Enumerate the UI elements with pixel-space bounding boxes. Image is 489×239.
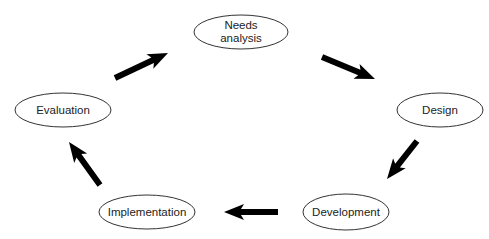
node-label-implementation: Implementation: [108, 206, 187, 219]
cycle-diagram: Needs analysis Design Development Implem…: [0, 0, 489, 239]
arrow-icon-design-to-development: [381, 136, 424, 184]
arrow-icon-implementation-to-evaluation: [63, 137, 107, 189]
node-label-evaluation: Evaluation: [36, 104, 90, 117]
node-label-development: Development: [312, 206, 380, 219]
node-label-design: Design: [422, 104, 458, 117]
arrow-icon-needs-to-design: [319, 50, 378, 87]
arrow-icon-development-to-implementation: [224, 204, 278, 220]
arrow-icon-evaluation-to-needs: [112, 46, 172, 85]
node-label-needs-analysis: Needs analysis: [220, 19, 262, 45]
